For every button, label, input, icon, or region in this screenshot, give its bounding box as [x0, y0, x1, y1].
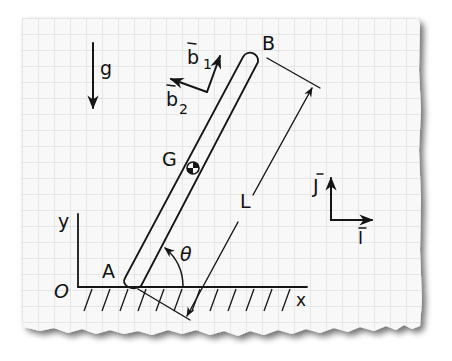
- point-g-label: G: [162, 148, 177, 170]
- center-of-mass-marker-icon: [187, 162, 199, 174]
- b1-subscript: 1: [203, 56, 212, 72]
- b2-subscript: 2: [179, 101, 188, 117]
- b1-vector-bar-icon: [188, 43, 196, 44]
- unit-j-label: J: [312, 175, 319, 197]
- origin-label: O: [54, 280, 69, 302]
- graph-paper: [22, 18, 422, 336]
- unit-i-label: I: [358, 228, 363, 248]
- x-axis-label: x: [296, 290, 306, 310]
- point-a-label: A: [102, 260, 115, 282]
- length-label: L: [240, 190, 251, 212]
- b2-vector-bar-icon: [167, 85, 175, 86]
- y-axis-label: y: [58, 210, 69, 232]
- gravity-label: g: [100, 57, 112, 79]
- b1-label: b: [187, 46, 199, 68]
- diagram-canvas: g b 1 b 2 G B A L θ: [0, 0, 452, 361]
- b2-label: b: [166, 88, 178, 110]
- point-b-label: B: [262, 32, 275, 54]
- angle-label: θ: [180, 243, 192, 265]
